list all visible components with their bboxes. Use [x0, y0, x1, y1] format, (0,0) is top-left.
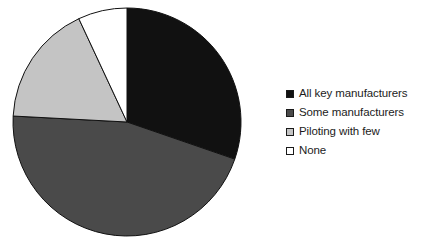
pie-slice-group — [13, 8, 241, 236]
legend-item-piloting-with-few[interactable]: Piloting with few — [286, 122, 433, 141]
pie-chart-figure: All key manufacturers Some manufacturers… — [0, 0, 433, 245]
legend-swatch-white — [286, 147, 294, 155]
legend-label-none: None — [299, 144, 326, 157]
legend-item-all-key-manufacturers[interactable]: All key manufacturers — [286, 84, 433, 103]
chart-legend: All key manufacturers Some manufacturers… — [286, 84, 433, 160]
legend-swatch-dark-gray — [286, 109, 294, 117]
legend-item-some-manufacturers[interactable]: Some manufacturers — [286, 103, 433, 122]
legend-label-piloting-with-few: Piloting with few — [299, 125, 380, 138]
legend-label-some-manufacturers: Some manufacturers — [299, 106, 404, 119]
legend-item-none[interactable]: None — [286, 141, 433, 160]
legend-swatch-black — [286, 90, 294, 98]
legend-label-all-key-manufacturers: All key manufacturers — [299, 87, 407, 100]
legend-swatch-light-gray — [286, 128, 294, 136]
